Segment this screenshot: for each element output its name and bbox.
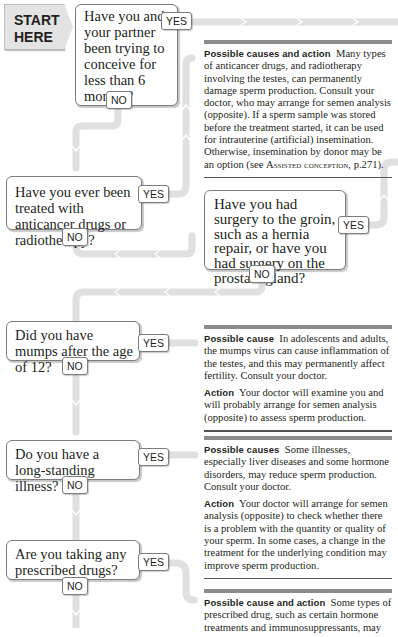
panel-top-rule <box>204 436 392 440</box>
start-here-label: START HERE <box>4 4 64 50</box>
panel-bottom-rule <box>204 177 392 179</box>
info-cause-heading: Possible causes <box>204 444 279 455</box>
start-label-line2: HERE <box>14 29 64 46</box>
info-heading: Possible cause and action <box>204 597 325 608</box>
question-node-prescribed-drugs: Are you taking any prescribed drugs? <box>6 540 140 580</box>
info-ref-suffix: , p.271). <box>348 159 383 170</box>
question-node-mumps: Did you have mumps after the age of 12? <box>6 321 140 361</box>
yes-branch-tag[interactable]: YES <box>138 448 169 466</box>
no-branch-tag[interactable]: NO <box>62 476 88 494</box>
start-arrow-icon <box>64 4 73 50</box>
panel-bottom-rule <box>204 430 392 432</box>
question-text: Are you taking any prescribed drugs? <box>15 546 127 578</box>
panel-top-rule <box>204 40 392 44</box>
start-label-line1: START <box>14 12 64 29</box>
yes-branch-tag[interactable]: YES <box>338 216 369 234</box>
info-panel-anticancer: Possible causes and action Many types of… <box>204 40 392 178</box>
info-action-heading: Action <box>204 387 234 398</box>
info-panel-drugs: Possible cause and action Some types of … <box>204 589 392 637</box>
info-panel-illness: Possible causes Some illnesses, especial… <box>204 436 392 579</box>
yes-branch-tag[interactable]: YES <box>138 334 169 352</box>
info-cause-heading: Possible cause <box>204 333 274 344</box>
no-branch-tag[interactable]: NO <box>62 357 88 375</box>
yes-branch-tag[interactable]: YES <box>161 12 192 30</box>
yes-branch-tag[interactable]: YES <box>138 553 169 571</box>
info-action-heading: Action <box>204 498 234 509</box>
cross-reference-link[interactable]: Assisted conception <box>266 159 348 170</box>
info-panel-mumps: Possible cause In adolescents and adults… <box>204 325 392 432</box>
yes-branch-tag[interactable]: YES <box>138 185 169 203</box>
no-branch-tag[interactable]: NO <box>249 265 275 283</box>
question-node-surgery: Have you had surgery to the groin, such … <box>204 190 346 270</box>
info-body: Many types of anticancer drugs, and radi… <box>204 48 391 170</box>
panel-bottom-rule <box>204 578 392 580</box>
no-branch-tag[interactable]: NO <box>62 228 88 246</box>
question-node-illness: Do you have a long-standing illness? <box>6 440 140 480</box>
info-heading: Possible causes and action <box>204 48 331 59</box>
no-branch-tag[interactable]: NO <box>106 91 132 109</box>
question-node-anticancer: Have you ever been treated with anticanc… <box>6 176 142 230</box>
no-branch-tag[interactable]: NO <box>62 577 88 595</box>
question-text: Have you and your partner been trying to… <box>84 8 165 104</box>
panel-top-rule <box>204 325 392 329</box>
panel-top-rule <box>204 589 392 593</box>
